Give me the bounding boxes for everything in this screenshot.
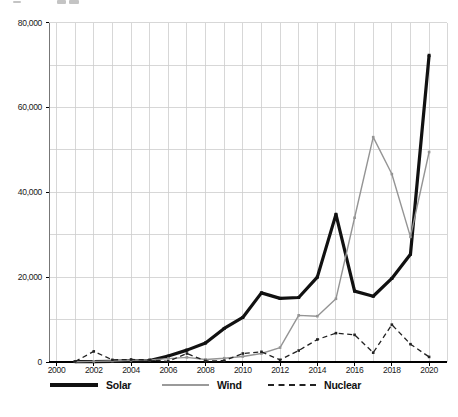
solar-marker bbox=[353, 290, 356, 293]
x-axis-label: 2004 bbox=[122, 365, 140, 375]
chart-figure: 2000200220042006200820102012201420162018… bbox=[0, 0, 458, 417]
wind-line-swatch bbox=[162, 384, 209, 386]
x-axis-label: 2002 bbox=[85, 365, 103, 375]
x-axis-label: 2012 bbox=[271, 365, 289, 375]
nuclear-marker bbox=[223, 359, 226, 362]
solar-line-swatch bbox=[50, 383, 98, 387]
series-nuclear bbox=[74, 323, 431, 363]
y-axis-label: 40,000 bbox=[18, 187, 43, 197]
x-axis-label: 2014 bbox=[308, 365, 326, 375]
wind-line bbox=[75, 137, 429, 362]
x-axis-label: 2006 bbox=[159, 365, 177, 375]
solar-marker bbox=[204, 341, 207, 344]
nuclear-marker bbox=[316, 338, 319, 341]
nuclear-marker bbox=[167, 360, 170, 363]
nuclear-marker bbox=[372, 351, 375, 354]
nuclear-marker bbox=[130, 358, 133, 361]
nuclear-marker bbox=[111, 359, 114, 362]
series-wind bbox=[74, 136, 431, 363]
solar-line bbox=[75, 55, 429, 361]
solar-marker bbox=[223, 327, 226, 330]
line-chart: 2000200220042006200820102012201420162018… bbox=[0, 0, 458, 417]
nuclear-marker bbox=[204, 360, 207, 363]
wind-marker bbox=[297, 314, 300, 317]
nuclear-marker bbox=[92, 350, 95, 353]
solar-marker bbox=[334, 213, 337, 216]
nuclear-marker bbox=[186, 352, 189, 355]
nuclear-marker bbox=[297, 349, 300, 352]
solar-marker bbox=[185, 349, 188, 352]
nuclear-marker bbox=[353, 334, 356, 337]
nuclear-line-swatch bbox=[268, 384, 316, 386]
nuclear-marker bbox=[391, 323, 394, 326]
solar-marker bbox=[297, 296, 300, 299]
nuclear-marker bbox=[335, 332, 338, 335]
nuclear-marker bbox=[409, 343, 412, 346]
x-axis-label: 2018 bbox=[383, 365, 401, 375]
series-solar bbox=[74, 54, 431, 363]
wind-marker bbox=[428, 151, 431, 154]
wind-marker bbox=[186, 356, 189, 359]
wind-marker bbox=[372, 136, 375, 139]
y-axis-label: 0 bbox=[38, 357, 43, 367]
nuclear-marker bbox=[428, 356, 431, 359]
solar-marker bbox=[428, 54, 431, 57]
wind-marker bbox=[391, 173, 394, 176]
solar-marker bbox=[260, 291, 263, 294]
wind-marker bbox=[242, 355, 245, 358]
nuclear-marker bbox=[242, 352, 245, 355]
wind-marker bbox=[316, 315, 319, 318]
legend-item-nuclear: Nuclear bbox=[268, 377, 361, 393]
legend-label-nuclear: Nuclear bbox=[324, 379, 361, 391]
legend-item-wind: Wind bbox=[162, 377, 242, 393]
solar-marker bbox=[279, 297, 282, 300]
wind-marker bbox=[92, 360, 95, 363]
legend: Solar Wind Nuclear bbox=[0, 377, 458, 395]
nuclear-marker bbox=[148, 359, 151, 362]
axis-labels: 2000200220042006200820102012201420162018… bbox=[18, 18, 439, 375]
wind-marker bbox=[167, 357, 170, 360]
nuclear-marker bbox=[260, 351, 263, 354]
y-axis-label: 80,000 bbox=[18, 18, 43, 28]
x-axis-label: 2020 bbox=[420, 365, 438, 375]
legend-label-solar: Solar bbox=[106, 379, 131, 391]
legend-label-wind: Wind bbox=[217, 379, 242, 391]
wind-marker bbox=[223, 357, 226, 360]
wind-marker bbox=[353, 216, 356, 219]
legend-item-solar: Solar bbox=[50, 377, 131, 393]
solar-marker bbox=[390, 277, 393, 280]
solar-marker bbox=[241, 316, 244, 319]
wind-marker bbox=[279, 346, 282, 349]
y-axis-label: 20,000 bbox=[18, 272, 43, 282]
nuclear-marker bbox=[74, 360, 77, 363]
solar-marker bbox=[167, 355, 170, 358]
solar-marker bbox=[372, 295, 375, 298]
solar-marker bbox=[409, 253, 412, 256]
y-axis-label: 60,000 bbox=[18, 102, 43, 112]
x-axis-label: 2008 bbox=[197, 365, 215, 375]
x-axis-label: 2010 bbox=[234, 365, 252, 375]
nuclear-marker bbox=[279, 359, 282, 362]
wind-marker bbox=[409, 236, 412, 239]
wind-marker bbox=[335, 297, 338, 300]
nuclear-line bbox=[75, 325, 429, 362]
x-axis-label: 2016 bbox=[346, 365, 364, 375]
solar-marker bbox=[316, 276, 319, 279]
x-axis-label: 2000 bbox=[48, 365, 66, 375]
